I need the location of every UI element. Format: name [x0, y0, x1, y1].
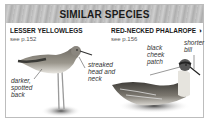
annotation-line: back	[11, 91, 32, 98]
similar-species-panel: SIMILAR SPECIES LESSER YELLOWLEGS see p.…	[5, 4, 204, 118]
annotation-black-cheek-patch: black cheek patch	[147, 44, 164, 65]
annotation-line: cheek	[147, 51, 164, 58]
annotation-darker-spotted-back: darker, spotted back	[11, 77, 32, 98]
panel-header: SIMILAR SPECIES	[6, 5, 203, 23]
annotation-line: bill	[184, 46, 204, 53]
annotation-line: shorter	[184, 39, 204, 46]
annotation-line: darker,	[11, 77, 32, 84]
annotation-shorter-bill: shorter bill	[184, 39, 204, 53]
species-name-red-necked-phalarope: RED-NECKED PHALAROPE ◑	[111, 27, 202, 34]
annotation-line: spotted	[11, 84, 32, 91]
panel-title: SIMILAR SPECIES	[59, 9, 149, 20]
half-circle-symbol-icon: ◑	[198, 27, 202, 34]
annotation-line: black	[147, 44, 164, 51]
species-name-text: RED-NECKED PHALAROPE	[111, 27, 196, 34]
annotation-line: patch	[147, 58, 164, 65]
species-name-lesser-yellowlegs: LESSER YELLOWLEGS	[10, 27, 83, 34]
